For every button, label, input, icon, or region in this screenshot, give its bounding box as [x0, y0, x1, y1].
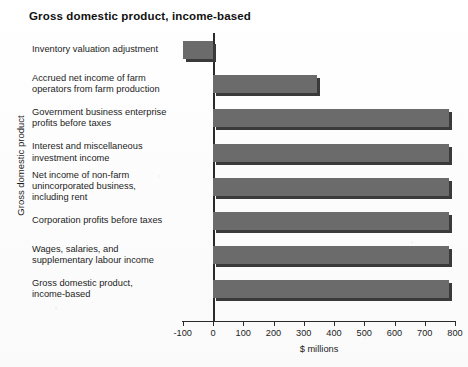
x-tick [304, 321, 305, 326]
x-tick [274, 321, 275, 326]
x-axis-title: $ millions [182, 344, 456, 354]
x-tick [455, 321, 456, 326]
category-label-line: Corporation profits before taxes [32, 215, 180, 226]
category-label-line: Accrued net income of farm [32, 73, 180, 84]
bar [213, 280, 449, 298]
bar [213, 178, 449, 196]
category-label-line: investment income [32, 153, 180, 164]
bar [213, 212, 449, 230]
bar [213, 75, 317, 93]
category-label-line: Wages, salaries, and [32, 244, 180, 255]
category-label: Net income of non-farmunincorporated bus… [32, 170, 180, 204]
category-label-line: Inventory valuation adjustment [32, 44, 180, 55]
category-label: Wages, salaries, andsupplementary labour… [32, 244, 180, 266]
x-tick [395, 321, 396, 326]
category-label-line: profits before taxes [32, 118, 180, 129]
x-tick [243, 321, 244, 326]
x-tick [364, 321, 365, 326]
category-label: Interest and miscellaneousinvestment inc… [32, 141, 180, 163]
category-label-line: Gross domestic product, [32, 278, 180, 289]
category-label: Government business enterpriseprofits be… [32, 107, 180, 129]
category-label-line: supplementary labour income [32, 255, 180, 266]
plot-area: -1000100200300400500600700800 Inventory … [0, 0, 468, 367]
bar [213, 144, 449, 162]
category-label-line: Interest and miscellaneous [32, 141, 180, 152]
bar [213, 246, 449, 264]
x-tick [213, 321, 214, 326]
category-label-line: unincorporated business, [32, 181, 180, 192]
x-tick [334, 321, 335, 326]
chart-page: Gross domestic product, income-based Gro… [0, 0, 468, 367]
x-tick-label: 800 [435, 328, 468, 338]
category-label: Inventory valuation adjustment [32, 44, 180, 55]
category-label-line: including rent [32, 192, 180, 203]
bar [183, 41, 213, 59]
x-axis-line [182, 321, 456, 322]
category-label-line: Net income of non-farm [32, 170, 180, 181]
category-label: Gross domestic product,income-based [32, 278, 180, 300]
category-label-line: operators from farm production [32, 84, 180, 95]
category-label-line: income-based [32, 289, 180, 300]
x-tick [183, 321, 184, 326]
bar [213, 109, 449, 127]
category-label-line: Government business enterprise [32, 107, 180, 118]
x-tick [425, 321, 426, 326]
category-label: Corporation profits before taxes [32, 215, 180, 226]
category-label: Accrued net income of farmoperators from… [32, 73, 180, 95]
